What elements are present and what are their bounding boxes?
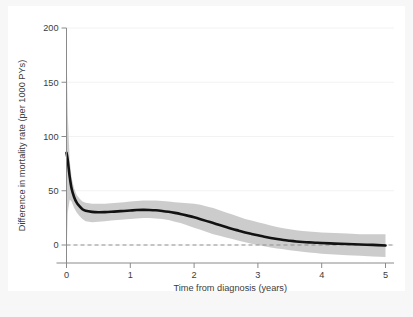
y-tick-label-50: 50 (48, 186, 58, 196)
y-tick-label-100: 100 (43, 132, 58, 142)
y-axis-title: Difference in mortality rate (per 1000 P… (17, 60, 27, 231)
x-tick-label-4: 4 (319, 270, 324, 280)
y-tick-label-0: 0 (53, 240, 58, 250)
x-axis-title: Time from diagnosis (years) (173, 283, 287, 293)
y-tick-label-200: 200 (43, 23, 58, 33)
x-tick-label-5: 5 (383, 270, 388, 280)
y-tick-label-150: 150 (43, 78, 58, 88)
chart-canvas: 050100150200 012345 Difference in mortal… (0, 0, 413, 317)
x-tick-label-0: 0 (64, 270, 69, 280)
figure-container: 050100150200 012345 Difference in mortal… (0, 0, 413, 317)
x-tick-label-2: 2 (192, 270, 197, 280)
x-tick-label-1: 1 (128, 270, 133, 280)
x-tick-label-3: 3 (255, 270, 260, 280)
